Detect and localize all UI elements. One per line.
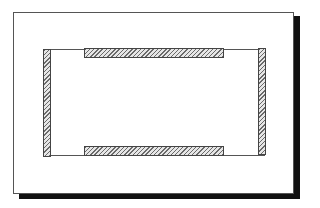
right-hatched-bar	[258, 48, 266, 155]
inner-rectangle	[43, 49, 265, 156]
bottom-hatched-bar	[84, 146, 224, 156]
left-hatched-bar	[43, 49, 51, 157]
top-hatched-bar	[84, 48, 224, 58]
